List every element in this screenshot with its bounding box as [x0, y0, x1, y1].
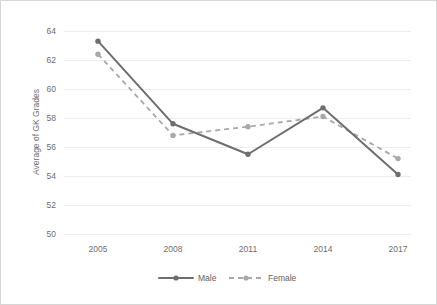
data-point-female-2014	[320, 114, 325, 119]
y-tick-label-50: 50	[47, 229, 57, 239]
x-tick-label-2017: 2017	[389, 244, 408, 254]
data-point-female-2011	[245, 124, 250, 129]
x-tick-label-2008: 2008	[164, 244, 183, 254]
chart-container: 64 62 60 58 56 54 52 50 Average of GK Gr…	[0, 0, 437, 305]
data-point-female-2005	[95, 52, 100, 57]
x-tick-label-2011: 2011	[239, 244, 258, 254]
legend-label-female: Female	[268, 273, 297, 283]
y-tick-label-64: 64	[47, 26, 57, 36]
y-axis-title: Average of GK Grades	[31, 89, 41, 175]
y-tick-label-56: 56	[47, 142, 57, 152]
y-tick-label-52: 52	[47, 200, 57, 210]
data-point-male-2011	[245, 152, 250, 157]
y-tick-label-62: 62	[47, 55, 57, 65]
y-tick-label-60: 60	[47, 84, 57, 94]
female-line	[98, 54, 398, 158]
y-tick-label-58: 58	[47, 113, 57, 123]
data-point-female-2017	[395, 156, 400, 161]
data-point-male-2008	[170, 121, 175, 126]
line-chart: 64 62 60 58 56 54 52 50 Average of GK Gr…	[1, 1, 437, 305]
x-tick-label-2014: 2014	[314, 244, 333, 254]
x-axis-tick-labels: 2005 2008 2011 2014 2017	[89, 244, 408, 254]
x-tick-label-2005: 2005	[89, 244, 108, 254]
chart-legend: Male Female	[159, 273, 297, 283]
legend-female-marker	[243, 275, 248, 280]
male-markers	[95, 38, 400, 177]
y-tick-label-54: 54	[47, 171, 57, 181]
data-point-male-2014	[320, 105, 325, 110]
series-female	[95, 52, 400, 162]
legend-male-marker	[173, 275, 178, 280]
data-point-male-2017	[395, 172, 400, 177]
female-markers	[95, 52, 400, 162]
data-point-female-2008	[170, 133, 175, 138]
series-male	[95, 38, 400, 177]
legend-label-male: Male	[198, 273, 217, 283]
y-axis-tick-labels: 64 62 60 58 56 54 52 50	[47, 26, 57, 239]
data-point-male-2005	[95, 38, 100, 43]
